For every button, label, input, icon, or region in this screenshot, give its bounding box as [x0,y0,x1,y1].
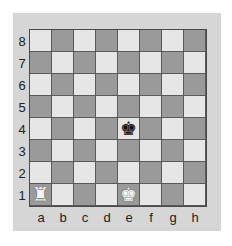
file-label: g [162,209,184,225]
square-h1[interactable] [184,184,206,206]
square-a8[interactable] [30,30,52,52]
square-c6[interactable] [74,74,96,96]
square-c2[interactable] [74,162,96,184]
square-g5[interactable] [162,96,184,118]
file-label: d [96,209,118,225]
square-h2[interactable] [184,162,206,184]
square-c1[interactable] [74,184,96,206]
square-h5[interactable] [184,96,206,118]
square-g7[interactable] [162,52,184,74]
square-e2[interactable] [118,162,140,184]
rank-label: 2 [14,162,30,184]
square-h4[interactable] [184,118,206,140]
square-g2[interactable] [162,162,184,184]
rank-label: 6 [14,74,30,96]
square-d6[interactable] [96,74,118,96]
square-g3[interactable] [162,140,184,162]
square-f5[interactable] [140,96,162,118]
square-h6[interactable] [184,74,206,96]
square-f2[interactable] [140,162,162,184]
square-g8[interactable] [162,30,184,52]
rank-label: 3 [14,140,30,162]
square-c7[interactable] [74,52,96,74]
chess-board: ♚♜♚ [29,29,207,207]
square-e4[interactable]: ♚ [118,118,140,140]
square-d2[interactable] [96,162,118,184]
square-d4[interactable] [96,118,118,140]
square-f6[interactable] [140,74,162,96]
square-b7[interactable] [52,52,74,74]
square-b4[interactable] [52,118,74,140]
square-f4[interactable] [140,118,162,140]
square-e8[interactable] [118,30,140,52]
square-g1[interactable] [162,184,184,206]
square-c4[interactable] [74,118,96,140]
square-h3[interactable] [184,140,206,162]
black-king-icon[interactable]: ♚ [120,119,137,138]
square-d8[interactable] [96,30,118,52]
white-king-icon[interactable]: ♚ [120,185,137,204]
square-b3[interactable] [52,140,74,162]
square-e7[interactable] [118,52,140,74]
square-a3[interactable] [30,140,52,162]
square-d5[interactable] [96,96,118,118]
square-e3[interactable] [118,140,140,162]
square-d3[interactable] [96,140,118,162]
square-b8[interactable] [52,30,74,52]
file-label: a [30,209,52,225]
file-label: c [74,209,96,225]
square-a2[interactable] [30,162,52,184]
square-b2[interactable] [52,162,74,184]
square-a4[interactable] [30,118,52,140]
file-label: e [118,209,140,225]
square-a6[interactable] [30,74,52,96]
square-a1[interactable]: ♜ [30,184,52,206]
square-c8[interactable] [74,30,96,52]
square-g4[interactable] [162,118,184,140]
square-c3[interactable] [74,140,96,162]
square-a5[interactable] [30,96,52,118]
square-d7[interactable] [96,52,118,74]
square-b6[interactable] [52,74,74,96]
square-e6[interactable] [118,74,140,96]
square-g6[interactable] [162,74,184,96]
rank-label: 5 [14,96,30,118]
square-e5[interactable] [118,96,140,118]
square-e1[interactable]: ♚ [118,184,140,206]
square-h7[interactable] [184,52,206,74]
square-b1[interactable] [52,184,74,206]
file-label: h [184,209,206,225]
rank-label: 7 [14,52,30,74]
square-b5[interactable] [52,96,74,118]
square-f3[interactable] [140,140,162,162]
rank-label: 4 [14,118,30,140]
square-a7[interactable] [30,52,52,74]
square-c5[interactable] [74,96,96,118]
white-rook-icon[interactable]: ♜ [32,185,49,204]
square-h8[interactable] [184,30,206,52]
square-f8[interactable] [140,30,162,52]
square-d1[interactable] [96,184,118,206]
file-label: f [140,209,162,225]
rank-label: 8 [14,30,30,52]
square-f1[interactable] [140,184,162,206]
file-label: b [52,209,74,225]
square-f7[interactable] [140,52,162,74]
rank-label: 1 [14,184,30,206]
